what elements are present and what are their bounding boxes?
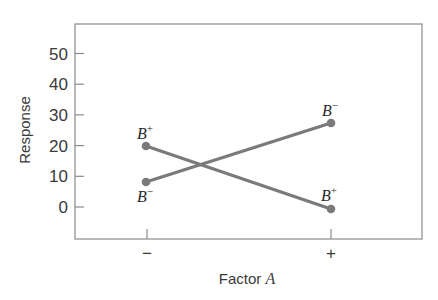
y-tick-label: 40 <box>49 75 68 94</box>
interaction-chart: 0 10 20 30 40 50 − + Factor A Response B… <box>0 0 438 300</box>
y-axis-ticks <box>75 54 84 208</box>
data-point <box>327 205 336 214</box>
point-label-left-top: B+ <box>137 122 153 142</box>
y-axis-title: Response <box>16 96 33 164</box>
y-tick-label: 10 <box>49 167 68 186</box>
plot-frame <box>75 24 422 239</box>
point-label-right-top: B− <box>322 99 338 119</box>
y-axis-tick-labels: 0 10 20 30 40 50 <box>49 45 68 218</box>
x-tick-label-plus: + <box>326 244 336 263</box>
point-label-left-bottom: B− <box>137 185 153 205</box>
data-point <box>142 142 151 151</box>
x-tick-label-minus: − <box>142 244 152 263</box>
point-label-right-bottom: B+ <box>321 184 337 204</box>
y-tick-label: 30 <box>49 106 68 125</box>
x-axis-ticks <box>147 229 331 239</box>
x-axis-title: Factor A <box>219 270 276 287</box>
y-tick-label: 0 <box>59 198 68 217</box>
y-tick-label: 20 <box>49 137 68 156</box>
y-tick-label: 50 <box>49 45 68 64</box>
data-point <box>327 119 336 128</box>
